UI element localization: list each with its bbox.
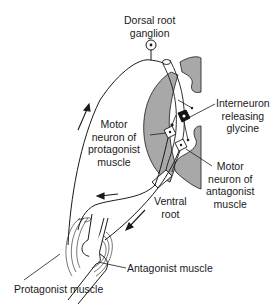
afferent-terminals (171, 115, 176, 126)
interneuron-glycine (178, 100, 193, 141)
label-protagonist-muscle: Protagonist muscle (14, 283, 103, 296)
label-ventral-root: Ventral root (154, 195, 187, 220)
motor-neuron-antagonist (175, 139, 187, 151)
label-interneuron: Interneuron releasing glycine (216, 97, 270, 135)
efferent-to-protagonist-arrow (97, 193, 118, 199)
label-motor-neuron-protagonist: Motor neuron of protagonist muscle (88, 118, 140, 168)
spinal-cord-gray-matter (144, 57, 201, 189)
label-dorsal-root-ganglion: Dorsal root ganglion (124, 14, 175, 39)
dorsal-root-ganglion (146, 40, 156, 50)
label-antagonist-muscle: Antagonist muscle (127, 262, 213, 275)
label-motor-neuron-antagonist: Motor neuron of antagonist muscle (206, 160, 254, 210)
